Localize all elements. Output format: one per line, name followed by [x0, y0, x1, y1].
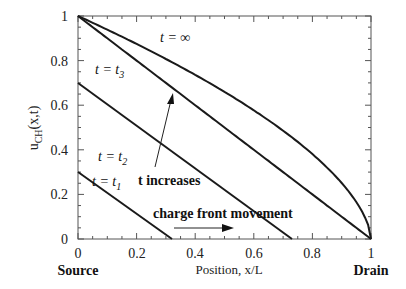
y-axis-title-sub: CH: [33, 129, 44, 143]
chart: 0 0.2 0.4 0.6 0.8 1 0 0.2 0.4 0.6 0.8 1 …: [0, 0, 406, 289]
x-axis-title: Position, x/L: [195, 262, 262, 277]
label-t-inf: t = ∞: [160, 30, 190, 45]
label-t1: t = t1: [92, 174, 121, 192]
y-tick-1: 1: [61, 9, 68, 24]
y-tick-0.2: 0.2: [51, 187, 69, 202]
charge-front-label: charge front movement: [153, 206, 293, 221]
x-tick-0.6: 0.6: [245, 246, 263, 261]
y-tick-0.6: 0.6: [51, 98, 69, 113]
charge-front-arrowhead-icon: [222, 224, 234, 232]
y-axis-title-tail: (x,t): [26, 105, 42, 129]
x-tick-0.2: 0.2: [128, 246, 146, 261]
t-increases-arrowhead-icon: [167, 93, 174, 104]
t-increases-label: t increases: [138, 173, 201, 188]
x-tick-0.4: 0.4: [186, 246, 204, 261]
label-t3: t = t3: [95, 62, 124, 80]
y-axis-title-main: u: [26, 143, 41, 150]
x-tick-1: 1: [368, 246, 375, 261]
x-tick-0: 0: [75, 246, 82, 261]
drain-label: Drain: [354, 263, 389, 278]
y-tick-0.4: 0.4: [51, 143, 69, 158]
y-axis-title: uCH(x,t): [26, 105, 44, 150]
y-tick-0: 0: [61, 232, 68, 247]
t-increases-arrow: [155, 100, 171, 167]
x-tick-labels: 0 0.2 0.4 0.6 0.8 1: [75, 246, 375, 261]
y-tick-0.8: 0.8: [51, 54, 69, 69]
x-tick-0.8: 0.8: [303, 246, 321, 261]
svg-text:uCH(x,t): uCH(x,t): [26, 105, 44, 150]
y-tick-labels: 0 0.2 0.4 0.6 0.8 1: [51, 9, 69, 247]
source-label: Source: [58, 263, 99, 278]
label-t2: t = t2: [98, 149, 127, 167]
